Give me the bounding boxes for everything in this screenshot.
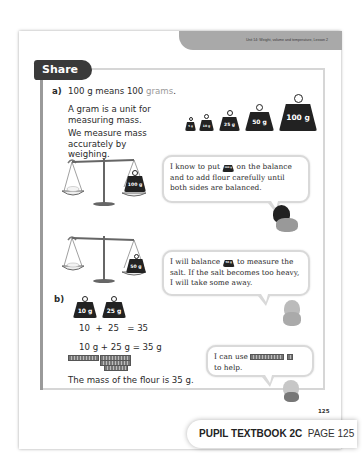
speech-bubble-tail [262,377,274,387]
frame-left-border [40,68,43,390]
weight-50g: 50 g [245,104,274,131]
weight-25g-b: 25 g [102,296,126,318]
bubble2-text-start: I will balance [170,257,220,266]
character-astrid-body-icon [276,218,298,232]
page-number: 125 [318,408,329,414]
section-title: Share [34,60,92,80]
part-a-label: a) [52,86,62,97]
equation-grams: 10 g + 25 g = 35 g [79,342,162,353]
weight-5g-label: 5 g [185,122,196,131]
character-ash-body-icon [284,392,299,402]
weight-25g: 25 g [219,110,240,131]
weight-100g-label: 100 g [279,104,317,131]
weight-100g: 100 g [279,94,317,131]
flour-mass-conclusion: The mass of the flour is 35 g. [68,375,194,386]
five-cubes-rod-icon [104,365,128,371]
speech-bubble-salt: I will balance 50 g to measure the salt.… [162,250,310,296]
grams-definition-end: . [173,86,176,96]
bubble3-text-end: to help. [214,363,242,372]
footer-book-title: PUPIL TEXTBOOK 2C [199,428,302,439]
unit-header: Unit 14: Weight, volume and temperature,… [179,31,342,50]
part-b-label: b) [54,294,64,305]
weight-50g-label: 50 g [245,112,274,131]
inline-weight-100g-icon: 100 g [222,162,234,172]
speech-bubble-cubes: I can use to help. [206,345,314,377]
equation-numbers: 10 + 25 = 35 [79,323,148,334]
inline-one-cube-icon [287,354,293,360]
scale-weight-100g: 100 g [124,170,146,192]
inline-ten-cubes-icon [250,354,284,360]
character-dexter-body-icon [283,312,301,326]
grams-definition: 100 g means 100 grams. [68,86,176,97]
footer-page-label: PAGE 125 [308,428,355,439]
weight-5g: 5 g [185,117,196,131]
weight-25g-b-label: 25 g [102,302,126,318]
footer-book-reference: PUPIL TEXTBOOK 2C PAGE 125 [187,420,357,448]
bubble1-text-start: I know to put [170,162,220,171]
ten-cubes-rod-icon [68,355,99,361]
weight-10g-label: 10 g [199,120,214,131]
weight-10g: 10 g [199,114,214,131]
inline-weight-50g-label: 50 g [223,260,235,267]
speech-bubble-tail [258,296,270,306]
inline-weight-100g-label: 100 g [222,165,234,172]
grams-definition-text: 100 g means 100 [68,86,146,96]
grams-keyword: grams [146,86,173,96]
weight-10g-b: 10 g [73,296,97,318]
weight-25g-label: 25 g [219,117,240,131]
weight-10g-b-label: 10 g [73,302,97,318]
gram-unit-text: A gram is a unit for measuring mass. [68,104,168,125]
scale-weight-50g: 50 g [126,254,146,273]
speech-bubble-flour: I know to put 100 g on the balance and t… [162,155,310,203]
inline-weight-50g-icon: 50 g [223,257,235,267]
scale-weight-100g-label: 100 g [124,176,146,192]
scale-weight-50g-label: 50 g [126,259,146,273]
bubble3-text-start: I can use [214,352,248,361]
